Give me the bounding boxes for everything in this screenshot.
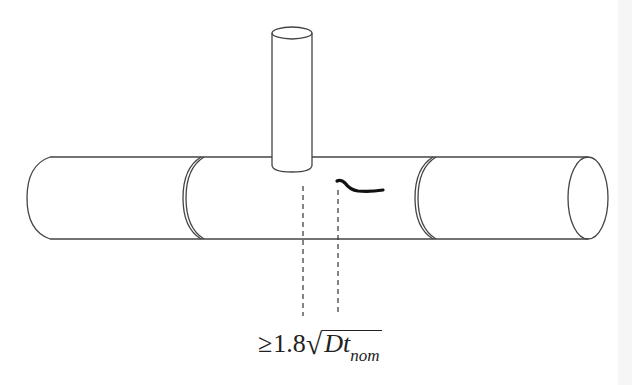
radicand-main: Dt <box>324 329 350 358</box>
distance-formula: ≥1.8√Dtnom <box>258 327 382 366</box>
dimension-lines <box>303 186 338 316</box>
radicand: Dtnom <box>322 330 381 366</box>
crack <box>337 180 383 191</box>
main-pipe <box>27 157 608 239</box>
girth-weld-right <box>415 157 436 239</box>
coefficient: 1.8 <box>273 329 306 358</box>
radical-icon: √ <box>306 327 322 360</box>
radicand-subscript: nom <box>350 346 379 365</box>
ge-symbol: ≥ <box>258 329 272 358</box>
branch-pipe <box>272 27 312 173</box>
girth-weld-left <box>183 157 204 239</box>
sqrt-expression: √Dtnom <box>306 327 382 366</box>
